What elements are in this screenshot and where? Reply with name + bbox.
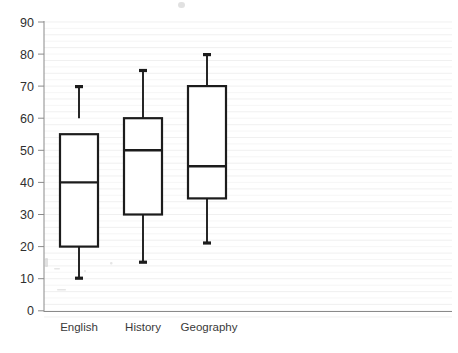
y-tick-label-40: 40 (20, 176, 34, 190)
chart-canvas: 90 80 70 60 50 40 30 20 10 0 (0, 0, 458, 353)
y-tick-label-10: 10 (20, 272, 34, 286)
y-tick-label-80: 80 (20, 48, 34, 62)
x-category-label-english: English (60, 321, 98, 333)
y-tick-label-60: 60 (20, 112, 34, 126)
y-tick-label-90: 90 (20, 16, 34, 30)
box-body-geography (188, 86, 226, 198)
box-body-english (60, 134, 98, 246)
y-tick-label-50: 50 (20, 144, 34, 158)
y-tick-label-20: 20 (20, 240, 34, 254)
box-plot-chart: 90 80 70 60 50 40 30 20 10 0 (0, 0, 458, 353)
x-category-label-geography: Geography (181, 321, 238, 333)
y-tick-label-70: 70 (20, 80, 34, 94)
x-category-label-history: History (125, 321, 161, 333)
y-tick-label-0: 0 (27, 304, 34, 318)
y-tick-label-30: 30 (20, 208, 34, 222)
box-body-history (124, 118, 162, 214)
